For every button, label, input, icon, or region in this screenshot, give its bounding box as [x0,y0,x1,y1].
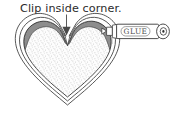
illustration-container: Clip inside corner. GLUE [0,0,175,122]
clip-inside-corner-illustration: Clip inside corner. GLUE [0,0,175,122]
caption-label: Clip inside corner. [20,2,122,15]
glue-neck [107,27,113,35]
glue-end-dot [162,30,164,33]
glue-label: GLUE [123,27,147,36]
